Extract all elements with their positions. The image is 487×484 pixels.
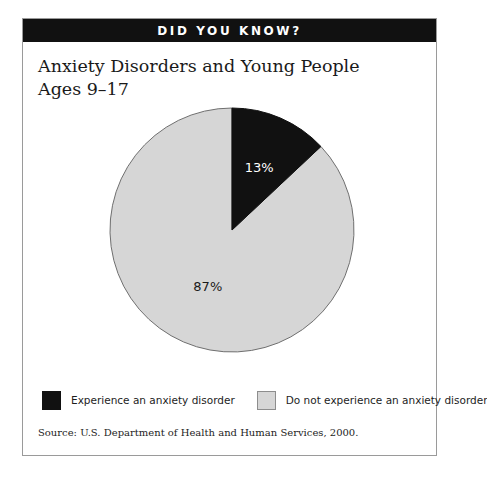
legend-label-do-not-experience: Do not experience an anxiety disorder <box>286 394 487 406</box>
source-note: Source: U.S. Department of Health and Hu… <box>38 427 423 438</box>
pie-chart-graphic: 13%87% <box>109 107 355 353</box>
legend-item-do-not-experience: Do not experience an anxiety disorder <box>257 391 487 410</box>
page-title-line-1: Anxiety Disorders and Young People <box>38 55 418 78</box>
legend-swatch-gray <box>257 391 276 410</box>
pie-label-do-not-experience: 87% <box>193 279 222 294</box>
banner: DID YOU KNOW? <box>23 19 436 42</box>
pie-label-experience: 13% <box>245 160 274 175</box>
did-you-know-card: DID YOU KNOW? Anxiety Disorders and Youn… <box>22 18 437 456</box>
legend-item-experience: Experience an anxiety disorder <box>42 391 235 410</box>
legend-swatch-black <box>42 391 61 410</box>
chart-legend: Experience an anxiety disorder Do not ex… <box>23 385 436 415</box>
banner-title: DID YOU KNOW? <box>157 25 302 37</box>
pie-chart: 13%87% <box>23 93 436 383</box>
legend-label-experience: Experience an anxiety disorder <box>71 394 235 406</box>
